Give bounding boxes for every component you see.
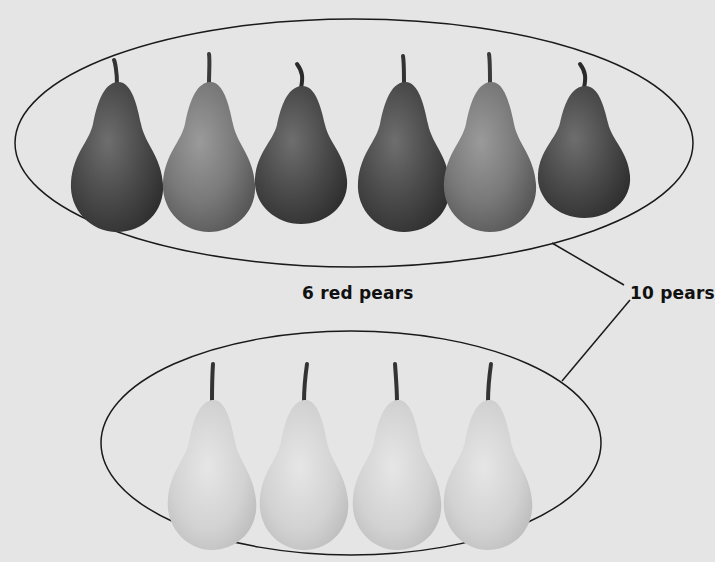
pear-icon [444,54,536,232]
green-pears-row [168,364,533,550]
red-pears-label: 6 red pears [302,283,414,303]
total-pears-label: 10 pears [630,283,715,303]
pear-icon [538,64,630,218]
pear-icon [353,364,442,550]
connector-line-top [552,243,624,285]
pear-icon [358,56,450,232]
pear-icon [444,364,533,550]
red-pears-row [71,54,630,232]
pear-icon [255,64,347,224]
pear-icon [71,60,163,232]
pear-icon [260,364,349,550]
pear-icon [168,364,257,550]
pear-icon [163,54,255,232]
connector-line-bottom [562,300,630,381]
